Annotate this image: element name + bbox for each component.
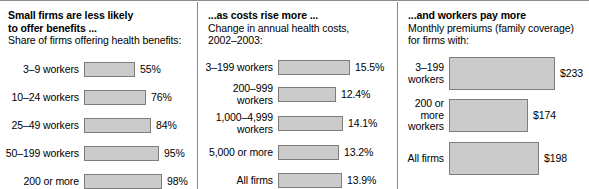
panel-subtitle-line2: for firms with: — [408, 34, 581, 47]
bar-row-label: All firms — [198, 175, 278, 187]
bar-row: 200 or more workers $174 — [398, 99, 589, 132]
bar-row-label: 200 or more workers — [398, 98, 449, 133]
panel-subtitle-line1: Share of firms offering health benefits: — [8, 34, 189, 47]
bar-row-label: 200–999 workers — [198, 83, 278, 106]
panel-title-line1: ...as costs rise more ... — [208, 9, 389, 22]
bar — [278, 87, 336, 102]
bar-row-value: $174 — [528, 110, 556, 122]
bar-row: 25–49 workers 84% — [0, 118, 197, 133]
bar — [84, 174, 162, 189]
panel-header: ...and workers pay more Monthly premiums… — [398, 2, 589, 47]
bar-row-label: 5,000 or more — [198, 147, 278, 159]
bar-row: 5,000 or more 13.2% — [198, 145, 397, 160]
bar — [278, 60, 350, 75]
bar-row-value: 95% — [159, 148, 185, 160]
bar-row-value: 55% — [135, 64, 161, 76]
bar — [84, 62, 135, 77]
bar-row-value: 76% — [146, 92, 172, 104]
panel-subtitle-line1: Monthly premiums (family coverage) — [408, 22, 581, 35]
bar-row-value: 15.5% — [350, 62, 384, 74]
bar-row: 50–199 workers 95% — [0, 146, 197, 161]
panel-subtitle-line1: Change in annual health costs, — [208, 22, 389, 35]
panel-header: Small firms are less likely to offer ben… — [0, 2, 197, 47]
bar-row-value: 13.2% — [339, 147, 373, 159]
bar-row-label: 1,000–4,999 workers — [198, 112, 278, 135]
bar-row: 200 or more 98% — [0, 174, 197, 189]
bar-row-label: 200 or more — [0, 176, 84, 188]
bar-row-value: 12.4% — [336, 89, 370, 101]
bar-row-label: 50–199 workers — [0, 148, 84, 160]
panel-title-line1: Small firms are less likely — [8, 9, 189, 22]
bar — [449, 99, 528, 132]
bar-row-value: 98% — [162, 176, 188, 188]
bar — [449, 57, 555, 90]
panel-workers-pay: ...and workers pay more Monthly premiums… — [397, 2, 589, 189]
infographic-figure: Small firms are less likely to offer ben… — [0, 0, 589, 189]
bar-row: 3–199 workers $233 — [398, 57, 589, 90]
bar-row-label: 3–9 workers — [0, 64, 84, 76]
bar — [84, 90, 146, 105]
bar-row-value: 13.9% — [342, 175, 376, 187]
bar-row: 3–9 workers 55% — [0, 62, 197, 77]
bar — [449, 142, 539, 175]
bar-row-label: 10–24 workers — [0, 92, 84, 104]
bar — [84, 118, 151, 133]
bar-row: 200–999 workers 12.4% — [198, 87, 397, 102]
bar-row-value: 14.1% — [343, 118, 377, 130]
bar-row-value: $233 — [555, 68, 583, 80]
panel-subtitle-line2: 2002–2003: — [208, 34, 389, 47]
bar — [278, 116, 343, 131]
panel-title-line2: to offer benefits ... — [8, 22, 189, 35]
bar — [84, 146, 159, 161]
bar-row: 10–24 workers 76% — [0, 90, 197, 105]
bar-row-label: 25–49 workers — [0, 120, 84, 132]
panel-costs-rise: ...as costs rise more ... Change in annu… — [197, 2, 397, 189]
bar — [278, 145, 339, 160]
bar-row: 3–199 workers 15.5% — [198, 60, 397, 75]
bar — [278, 173, 342, 188]
bar-row-label: All firms — [398, 153, 449, 165]
bar-rows: 3–199 workers $233 200 or more workers $… — [398, 57, 589, 189]
bar-row-value: $198 — [539, 153, 567, 165]
bar-row-value: 84% — [151, 120, 177, 132]
panel-header: ...as costs rise more ... Change in annu… — [198, 2, 397, 47]
panel-small-firms: Small firms are less likely to offer ben… — [0, 2, 197, 189]
panel-title-line1: ...and workers pay more — [408, 9, 581, 22]
bar-row: All firms 13.9% — [198, 173, 397, 188]
bar-rows: 3–9 workers 55% 10–24 workers 76% 25–49 … — [0, 57, 197, 189]
bar-row: All firms $198 — [398, 142, 589, 175]
bar-rows: 3–199 workers 15.5% 200–999 workers 12.4… — [198, 57, 397, 189]
bar-row-label: 3–199 workers — [398, 62, 449, 85]
bar-row: 1,000–4,999 workers 14.1% — [198, 116, 397, 131]
bar-row-label: 3–199 workers — [198, 62, 278, 74]
